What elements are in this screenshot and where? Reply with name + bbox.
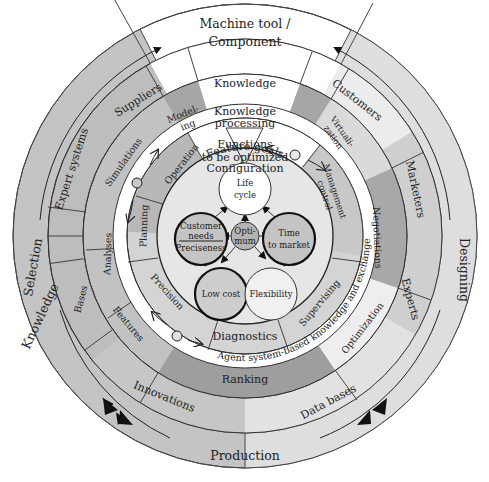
time-to-market-node	[263, 213, 315, 265]
machine-tool-knowledge-diagram: Machine tool / Component Knowledge Knowl…	[0, 0, 489, 482]
optimum-line2: mum	[234, 236, 256, 246]
low-cost-label: Low cost	[202, 289, 241, 299]
preciseness-label: Preciseness	[176, 243, 227, 253]
customer-needs-line1: Customer	[180, 221, 223, 231]
title-line1: Machine tool /	[200, 16, 292, 31]
knowledge-label: Knowledge	[214, 77, 276, 90]
designing-label: Designing	[457, 238, 472, 302]
knowledge-processing-line2: processing	[215, 117, 276, 130]
configuration-label: Configuration	[206, 162, 283, 175]
planning-label: Planning	[137, 204, 149, 247]
diagnostics-label: Diagnostics	[212, 330, 277, 343]
negotiations-label: Negotiations	[371, 207, 384, 269]
analyses-label: Analyses	[101, 232, 114, 276]
production-label: Production	[210, 448, 280, 463]
time-to-market-line1: Time	[278, 228, 299, 238]
life-cycle-line1: Life	[237, 178, 254, 188]
optimum-line1: Opti-	[234, 226, 256, 236]
ranking-label: Ranking	[222, 373, 269, 386]
time-to-market-line2: to market	[268, 240, 311, 250]
flexibility-label: Flexibility	[250, 289, 293, 299]
customer-needs-line2: needs	[188, 231, 213, 241]
title-line2: Component	[209, 34, 282, 49]
life-cycle-line2: cycle	[234, 190, 256, 200]
